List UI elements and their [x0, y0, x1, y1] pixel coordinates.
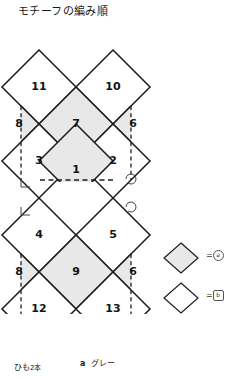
legend: =a =b	[160, 238, 238, 322]
page-title: モチーフの編み順	[18, 2, 108, 18]
legend-swatch-shaded-diamond	[160, 238, 204, 278]
motif-number-8: 8	[15, 117, 23, 130]
motif-number-11: 11	[31, 80, 46, 93]
footer: ひも2本 aグレー	[0, 352, 240, 379]
legend-equals-plain: =b	[206, 290, 224, 301]
motif-number-3: 3	[35, 154, 43, 167]
motif-number-7: 7	[72, 117, 80, 130]
color-name-a: グレー	[91, 359, 115, 368]
motif-number-13: 13	[105, 302, 120, 314]
motif-number-6: 6	[129, 117, 137, 130]
motif-number-5: 5	[109, 228, 117, 241]
yarn-count: 2本	[30, 364, 41, 372]
yarn-spec: ひも2本	[14, 361, 41, 372]
legend-row-plain: =b	[160, 278, 238, 318]
legend-swatch-plain-diamond	[160, 278, 204, 318]
color-key-a: a	[80, 359, 85, 368]
legend-equals-sign-shaded: =	[206, 251, 213, 260]
legend-row-shaded: =a	[160, 238, 238, 278]
motif-number-12: 12	[31, 302, 46, 314]
legend-equals-shaded: =a	[206, 250, 224, 261]
motif-number-8: 8	[15, 265, 23, 278]
motif-number-6: 6	[129, 265, 137, 278]
yarn-label: ひも	[14, 363, 30, 372]
legend-mark-a-icon: a	[213, 250, 224, 261]
legend-mark-b-icon: b	[213, 290, 224, 301]
motif-number-2: 2	[109, 154, 117, 167]
motif-order-diagram: 1110876321458961213	[0, 22, 152, 314]
diagram-canvas: 1110876321458961213	[0, 22, 152, 314]
legend-equals-sign-plain: =	[206, 291, 213, 300]
motif-number-4: 4	[35, 228, 43, 241]
motif-number-1: 1	[72, 163, 80, 176]
motif-number-10: 10	[105, 80, 121, 93]
motif-number-9: 9	[72, 265, 80, 278]
color-spec-a: aグレー	[80, 357, 115, 368]
arc-marker-2-icon	[126, 202, 136, 212]
